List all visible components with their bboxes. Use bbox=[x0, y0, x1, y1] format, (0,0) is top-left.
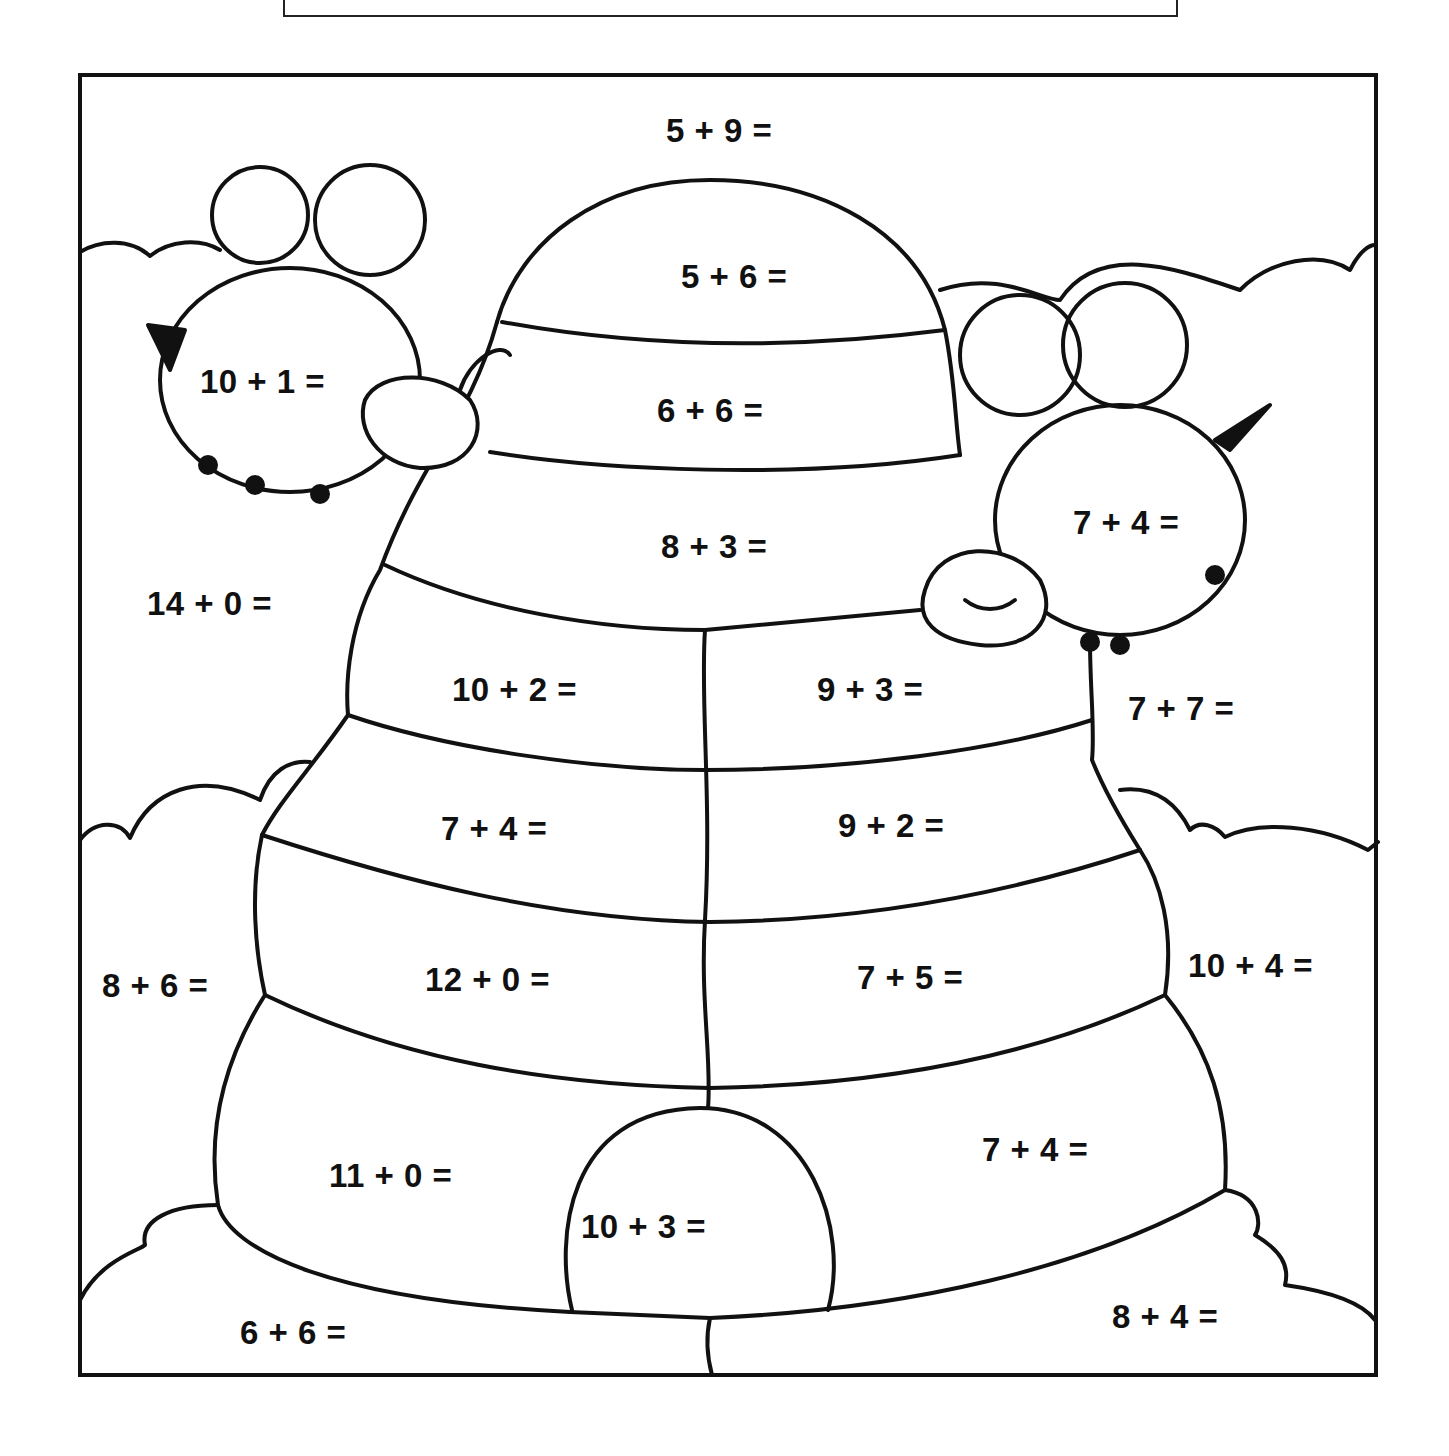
equation-hive-4-right: 9 + 3 = bbox=[817, 671, 923, 709]
equation-hive-7-left: 11 + 0 = bbox=[329, 1157, 452, 1195]
equation-bee-left: 10 + 1 = bbox=[200, 363, 325, 401]
equation-ground-left: 6 + 6 = bbox=[240, 1314, 346, 1352]
equation-hive-7-right: 7 + 4 = bbox=[982, 1131, 1088, 1169]
equation-top-sky: 5 + 9 = bbox=[666, 112, 772, 150]
equation-hive-4-left: 10 + 2 = bbox=[452, 671, 577, 709]
equation-left-cloud: 8 + 6 = bbox=[102, 967, 208, 1005]
equation-right-sky: 7 + 7 = bbox=[1128, 690, 1234, 728]
equation-hive-band-2: 6 + 6 = bbox=[657, 392, 763, 430]
equation-hive-6-left: 12 + 0 = bbox=[425, 961, 550, 999]
equation-hive-6-right: 7 + 5 = bbox=[857, 959, 963, 997]
equation-hive-5-right: 9 + 2 = bbox=[838, 807, 944, 845]
equation-hive-5-left: 7 + 4 = bbox=[441, 810, 547, 848]
equation-left-sky: 14 + 0 = bbox=[147, 585, 272, 623]
equation-bee-right: 7 + 4 = bbox=[1073, 504, 1179, 542]
equation-ground-right: 8 + 4 = bbox=[1112, 1298, 1218, 1336]
equation-right-cloud: 10 + 4 = bbox=[1188, 947, 1313, 985]
equation-hive-band-3: 8 + 3 = bbox=[661, 528, 767, 566]
equation-hive-dome: 5 + 6 = bbox=[681, 258, 787, 296]
equation-hive-door: 10 + 3 = bbox=[581, 1208, 706, 1246]
